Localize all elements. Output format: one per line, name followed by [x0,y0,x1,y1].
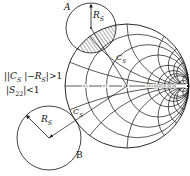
radius-b-label: RS [41,115,52,126]
radius-a-label: RS [93,11,104,22]
condition-2: |S22|<1 [6,86,40,97]
tick-label: 1.0 [123,84,128,88]
condition-1: ||CS |−RS|>1 [4,72,62,83]
stability-circle-b [17,86,127,170]
center-a-sub: S [122,58,126,64]
cond1-c: C [10,71,17,81]
cond2-suffix: |<1 [23,85,39,95]
cond1-mid: |− [24,71,35,81]
radius-b-sub: S [48,119,52,126]
radius-a-text: R [93,10,100,20]
radius-a-sub: S [100,15,104,22]
tick-label: 20 [172,84,176,88]
radius-b-text: R [41,114,48,124]
center-b-sub: S [79,112,83,118]
tick-label: 10 [167,84,171,88]
center-a-label: CS [116,54,126,64]
tick-label: 0.2 [83,84,88,88]
cond1-r: R [35,71,42,81]
point-a-label: A [64,3,71,12]
arrowhead-icon [89,4,92,8]
point-b-label: B [76,151,83,160]
tick-label: 5.0 [161,84,166,88]
cond1-c-sub: S [17,76,21,83]
smith-chart-diagram: 0.2 0.5 1.0 2.0 3.0 4.0 5.0 10 20 [0,0,190,176]
tick-label: 0.5 [103,84,108,88]
center-b-label: CS [73,108,83,118]
cond1-suffix: |>1 [46,71,62,81]
